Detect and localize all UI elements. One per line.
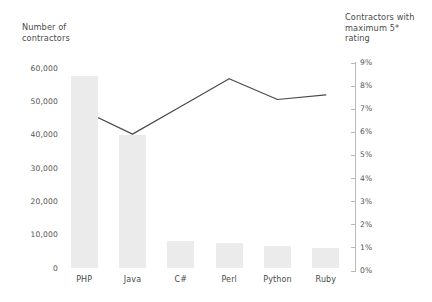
right-axis-tick-6pct: 6% xyxy=(360,127,372,136)
bar-python xyxy=(264,246,291,268)
right-axis-tick-labels: 0%1%2%3%4%5%6%7%8%9% xyxy=(360,0,430,302)
right-axis-tick-7pct: 7% xyxy=(360,104,372,113)
plot-area: PHPJavaC#PerlPythonRuby xyxy=(60,0,350,302)
right-axis-tick-mark xyxy=(351,109,355,110)
left-axis-tick-labels: 010,00020,00030,00040,00050,00060,000 xyxy=(0,0,58,302)
left-axis-tick-30000: 30,000 xyxy=(31,164,58,173)
right-axis-tick-mark xyxy=(351,155,355,156)
line-series-path xyxy=(84,79,326,134)
right-axis-tick-3pct: 3% xyxy=(360,197,372,206)
right-axis-tick-1pct: 1% xyxy=(360,243,372,252)
bar-ruby xyxy=(312,248,339,268)
right-axis-tick-5pct: 5% xyxy=(360,150,372,159)
left-axis-tick-0: 0 xyxy=(53,264,58,273)
right-axis-tick-mark xyxy=(351,86,355,87)
left-axis-tick-10000: 10,000 xyxy=(31,230,58,239)
right-axis-tick-8pct: 8% xyxy=(360,81,372,90)
right-axis-tick-4pct: 4% xyxy=(360,174,372,183)
right-axis-tick-0pct: 0% xyxy=(360,266,372,275)
right-axis-tick-mark xyxy=(351,201,355,202)
right-axis-tick-mark xyxy=(351,271,355,272)
bar-php xyxy=(71,76,98,268)
bar-java xyxy=(119,135,146,268)
left-axis-tick-40000: 40,000 xyxy=(31,130,58,139)
right-axis-tick-mark xyxy=(351,178,355,179)
bar-csharp xyxy=(167,241,194,268)
right-axis-spine xyxy=(355,62,356,272)
right-axis-tick-2pct: 2% xyxy=(360,220,372,229)
line-series-svg xyxy=(60,0,350,302)
right-axis-tick-mark xyxy=(351,132,355,133)
right-axis-tick-9pct: 9% xyxy=(360,58,372,67)
left-axis-tick-50000: 50,000 xyxy=(31,97,58,106)
right-axis-tick-mark xyxy=(351,224,355,225)
category-label-ruby: Ruby xyxy=(296,275,356,284)
right-axis-tick-mark xyxy=(351,63,355,64)
bar-perl xyxy=(216,243,243,268)
left-axis-tick-60000: 60,000 xyxy=(31,64,58,73)
left-axis-tick-20000: 20,000 xyxy=(31,197,58,206)
right-axis-tick-mark xyxy=(351,247,355,248)
chart-container: Number of contractors Contractors with m… xyxy=(0,0,432,302)
